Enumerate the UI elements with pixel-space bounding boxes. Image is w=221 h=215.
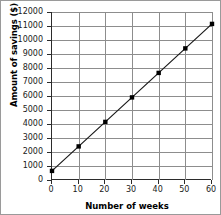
y-tick-label: 8000: [3, 64, 43, 72]
x-tick-mark: [104, 180, 105, 184]
y-tick-label: 5000: [3, 106, 43, 114]
y-tick-label: 3000: [3, 134, 43, 142]
savings-line-chart: Amount of savings ($) Number of weeks 01…: [0, 0, 221, 215]
x-tick-label: 10: [64, 186, 92, 194]
y-tick-label: 7000: [3, 78, 43, 86]
data-point: [183, 46, 187, 50]
data-point: [210, 22, 214, 26]
y-tick-label: 6000: [3, 92, 43, 100]
gridline-vertical: [212, 12, 213, 180]
x-axis-title: Number of weeks: [41, 201, 213, 211]
y-tick-label: 12000: [3, 8, 43, 16]
x-tick-mark: [158, 180, 159, 184]
x-tick-mark: [51, 180, 52, 184]
x-tick-label: 40: [144, 186, 172, 194]
x-tick-mark: [184, 180, 185, 184]
x-tick-label: 0: [37, 186, 65, 194]
data-point: [76, 144, 80, 148]
y-tick-label: 11000: [3, 22, 43, 30]
y-tick-label: 1000: [3, 162, 43, 170]
x-tick-label: 30: [117, 186, 145, 194]
data-point: [130, 95, 134, 99]
data-point: [50, 169, 54, 173]
y-tick-label: 0: [3, 176, 43, 184]
y-tick-label: 4000: [3, 120, 43, 128]
plot-area: [51, 12, 211, 180]
data-point: [156, 71, 160, 75]
y-tick-label: 10000: [3, 36, 43, 44]
x-tick-label: 50: [170, 186, 198, 194]
x-tick-mark: [211, 180, 212, 184]
x-tick-label: 60: [197, 186, 221, 194]
data-point: [103, 120, 107, 124]
x-tick-label: 20: [90, 186, 118, 194]
y-tick-label: 9000: [3, 50, 43, 58]
y-tick-label: 2000: [3, 148, 43, 156]
x-tick-mark: [78, 180, 79, 184]
x-tick-mark: [131, 180, 132, 184]
data-series: [52, 12, 212, 180]
